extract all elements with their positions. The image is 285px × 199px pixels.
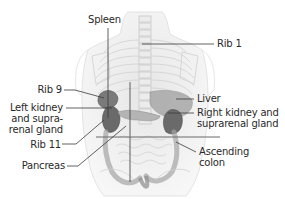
label-liver: Liver xyxy=(197,93,221,104)
label-right-kidney: Right kidney and suprarenal gland xyxy=(197,107,279,129)
label-rib1: Rib 1 xyxy=(217,38,242,49)
left-kidney xyxy=(102,106,120,132)
label-right-kidney-line1: Right kidney and xyxy=(197,107,279,118)
label-right-kidney-line2: suprarenal gland xyxy=(197,118,279,129)
label-spleen: Spleen xyxy=(88,14,121,25)
anatomy-figure: Spleen Rib 1 Rib 9 Left kidney and supra… xyxy=(0,0,285,199)
label-rib11: Rib 11 xyxy=(20,139,61,150)
label-left-kidney-line3: renal gland xyxy=(0,124,63,135)
spine xyxy=(139,16,151,124)
label-ascending-colon-line2: colon xyxy=(199,157,249,168)
label-ascending-colon-line1: Ascending xyxy=(199,146,249,157)
label-rib9: Rib 9 xyxy=(30,84,62,95)
label-left-kidney-line2: and supra- xyxy=(0,113,63,124)
label-left-kidney-line1: Left kidney xyxy=(0,102,63,113)
label-ascending-colon: Ascending colon xyxy=(199,146,249,168)
label-left-kidney: Left kidney and supra- renal gland xyxy=(0,102,63,135)
label-pancreas: Pancreas xyxy=(10,160,65,171)
